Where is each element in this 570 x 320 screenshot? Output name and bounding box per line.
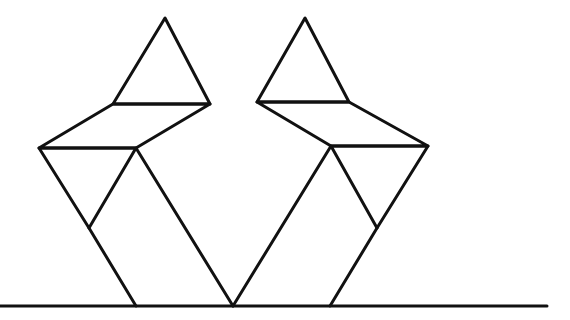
left-body-triangle [39,148,136,228]
right-figure [233,18,428,306]
left-leg-outer [89,228,136,306]
right-leg-inner [233,146,331,306]
right-body-triangle [331,146,428,228]
left-head-triangle [113,18,210,104]
left-figure [39,18,233,306]
tangram-figures-diagram [0,0,570,320]
diagram-svg [0,0,570,320]
left-leg-inner [136,148,233,306]
right-leg-outer [330,228,377,306]
left-shoulder-parallelogram [39,104,210,148]
right-shoulder-parallelogram [257,102,428,146]
right-head-triangle [257,18,349,102]
